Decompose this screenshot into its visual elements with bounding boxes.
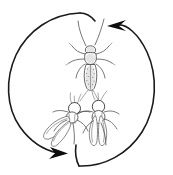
cycle-diagram-svg — [0, 0, 173, 175]
figure-container: Insect interaction cycle diagram Line dr… — [0, 0, 173, 175]
beetle-thorax-shade — [86, 54, 95, 64]
